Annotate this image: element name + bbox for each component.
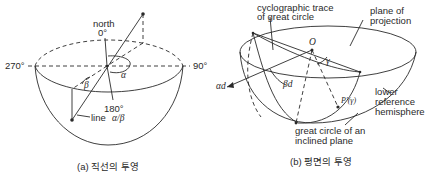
label-beta: β [84, 80, 89, 90]
label-alpha: α [121, 70, 126, 80]
label-270-degree: 270° [5, 61, 25, 71]
label-pole: P′(γ) [341, 96, 356, 106]
caption-a: (a) 직선의 투영 [77, 159, 139, 173]
label-plane-2: projection [370, 16, 411, 26]
label-beta-d: βd [283, 79, 292, 89]
label-gamma: γ [326, 56, 330, 66]
caption-b: (b) 평면의 투영 [290, 154, 352, 168]
label-0-degree: 0° [98, 28, 107, 38]
label-great-circle-2: inclined plane [295, 136, 353, 146]
label-line-symbol: α/β [112, 113, 124, 123]
label-90-degree: 90° [193, 61, 207, 71]
label-origin: O [309, 37, 316, 47]
label-line: line [91, 113, 106, 123]
label-alpha-d: αd [216, 81, 226, 91]
figure-b-plane-projection: cyclographic trace of great circle plane… [213, 0, 427, 180]
figure-a-line-projection: north 0° 270° 90° α β 180° line α/β (a) … [0, 0, 213, 180]
label-hemisphere-3: hemisphere [375, 107, 425, 117]
label-cyclographic-2: of great circle [257, 12, 314, 22]
